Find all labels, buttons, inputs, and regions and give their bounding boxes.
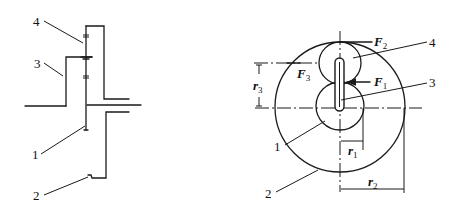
gear-4-body xyxy=(86,26,129,99)
callout-2-label: 2 xyxy=(265,186,272,201)
callout-4-label: 4 xyxy=(429,35,436,50)
dimension-r1-label: r1 xyxy=(348,143,358,160)
dimension-r2-label: r2 xyxy=(368,174,378,191)
callout-4-leader xyxy=(44,21,83,43)
callout-3-label: 3 xyxy=(429,75,436,90)
ring-gear-2 xyxy=(88,112,129,178)
callout-2-leader xyxy=(44,177,88,195)
callout-3-label: 3 xyxy=(34,56,41,71)
callout-2-label: 2 xyxy=(33,188,40,203)
callout-1-label: 1 xyxy=(32,147,39,162)
callout-3-leader xyxy=(44,63,63,76)
dimension-r3-label: r3 xyxy=(253,78,263,95)
force-F3-label: F3 xyxy=(296,66,311,83)
callout-4-leader xyxy=(353,42,427,58)
callout-1-leader xyxy=(41,126,85,154)
planetary-gear-diagram: 4 3 1 2 F2 F1 F3 r3 r1 r2 xyxy=(0,0,456,214)
left-side-view: 4 3 1 2 xyxy=(25,14,141,203)
force-F2-label: F2 xyxy=(373,34,387,51)
callout-2-leader xyxy=(276,170,318,192)
force-F1-label: F1 xyxy=(373,74,387,91)
callout-4-label: 4 xyxy=(33,14,40,29)
carrier-arm-3 xyxy=(66,57,92,106)
callout-1-label: 1 xyxy=(274,139,281,154)
right-front-view: F2 F1 F3 r3 r1 r2 4 3 1 2 xyxy=(253,31,436,201)
callout-1-leader xyxy=(285,121,325,145)
